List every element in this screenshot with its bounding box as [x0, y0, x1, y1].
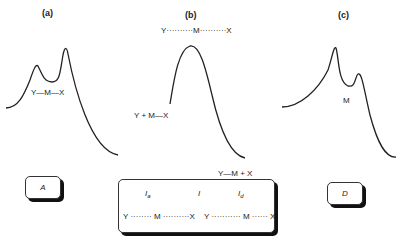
- header-i: I: [198, 189, 200, 198]
- atom-m: M: [44, 88, 51, 97]
- panel-b-reactant-label: Y + M—X: [134, 111, 168, 120]
- header-ia: Ia: [145, 189, 151, 199]
- box-d: D: [327, 182, 363, 205]
- associative-formula: Y ········ M ··········X: [123, 212, 195, 221]
- panel-c-intermediate-label: M: [343, 96, 350, 105]
- panel-b-product-label: Y—M + X: [218, 169, 252, 178]
- panel-c-label: (c): [338, 10, 349, 20]
- box-d-label: D: [342, 189, 348, 198]
- panel-a-bond-label: Y—M—X: [31, 88, 64, 97]
- curve-a: [6, 48, 118, 155]
- dissociative-formula: Y ··········· M ······ X: [204, 212, 275, 221]
- panel-a-label: (a): [42, 8, 53, 18]
- curve-c: [282, 48, 396, 157]
- box-a: A: [25, 176, 61, 199]
- box-a-label: A: [40, 183, 45, 192]
- atom-x: X: [226, 26, 231, 35]
- partial-bond: ··········: [200, 26, 227, 35]
- atom-x: X: [59, 88, 64, 97]
- partial-bond: ··········: [166, 26, 193, 35]
- atom-m: M: [193, 26, 200, 35]
- header-id: Id: [238, 189, 244, 199]
- bond: —: [51, 88, 59, 97]
- panel-b-top-label: Y··········M··········X: [161, 26, 232, 35]
- panel-b-label: (b): [185, 10, 197, 20]
- box-intermediates: Ia I Id Y ········ M ··········X Y ·····…: [118, 179, 275, 233]
- curve-b: [170, 46, 245, 158]
